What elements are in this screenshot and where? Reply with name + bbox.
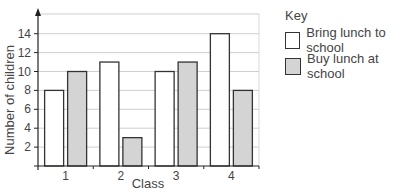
x-tick-label: 3 [173, 169, 180, 183]
bar-bring-class-2 [100, 62, 119, 166]
bar-bring-class-4 [210, 34, 229, 166]
y-tick-label: 10 [18, 65, 32, 79]
y-tick-label: 6 [24, 102, 31, 116]
bar-buy-class-2 [123, 138, 142, 166]
x-tick-label: 2 [118, 169, 125, 183]
legend: Key Bring lunch to school Buy lunch at s… [285, 8, 413, 79]
x-tick-label: 1 [62, 169, 69, 183]
y-tick-label: 4 [24, 121, 31, 135]
legend-item-bring: Bring lunch to school [285, 27, 413, 53]
legend-label: Buy lunch at school [307, 51, 413, 81]
y-tick-label: 2 [24, 140, 31, 154]
y-tick-label: 8 [24, 83, 31, 97]
bars [45, 34, 253, 166]
y-tick-labels: 2468101214 [18, 27, 32, 154]
bar-buy-class-3 [178, 62, 197, 166]
bar-bring-class-3 [155, 72, 174, 167]
legend-swatch-white [285, 32, 300, 49]
y-axis-label: Number of children [2, 45, 17, 155]
y-tick-label: 12 [18, 46, 32, 60]
legend-swatch-grey [285, 58, 301, 75]
bar-bring-class-1 [45, 90, 64, 166]
x-axis-label: Class [132, 176, 165, 191]
x-tick-label: 4 [228, 169, 235, 183]
legend-item-buy: Buy lunch at school [285, 53, 413, 79]
y-axis-arrow-icon [35, 8, 41, 16]
bar-buy-class-4 [233, 90, 252, 166]
legend-title: Key [285, 8, 413, 23]
bar-buy-class-1 [68, 72, 87, 167]
y-tick-label: 14 [18, 27, 32, 41]
